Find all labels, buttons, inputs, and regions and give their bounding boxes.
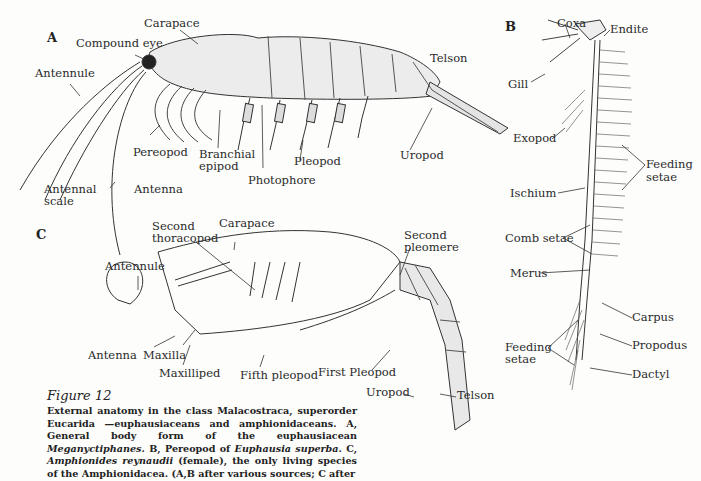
label-c-antennule: Antennule xyxy=(105,260,165,273)
label-b-propodus: Propodus xyxy=(632,339,687,352)
caption-part-italic: Amphionides reynaudii xyxy=(47,455,173,466)
caption-part: . C, xyxy=(339,443,357,454)
label-a-pereopod: Pereopod xyxy=(133,146,188,159)
label-b-dactyl: Dactyl xyxy=(632,368,669,381)
figure-caption: External anatomy in the class Malacostra… xyxy=(47,405,357,481)
label-c-maxilla: Maxilla xyxy=(143,349,186,362)
figure-number: Figure 12 xyxy=(47,388,111,403)
label-a-carapace: Carapace xyxy=(144,17,199,30)
label-a-uropod: Uropod xyxy=(400,149,444,162)
label-c-fifth-pleopod: Fifth pleopod xyxy=(240,369,318,382)
label-c-uropod: Uropod xyxy=(366,386,410,399)
label-a-branchial-epipod-2: epipod xyxy=(199,160,239,173)
label-b-exopod: Exopod xyxy=(513,132,556,145)
caption-part: . B, Pereopod of xyxy=(142,443,235,454)
label-b-comb-setae: Comb setae xyxy=(505,232,574,245)
label-b-feeding-setae-bottom-2: setae xyxy=(505,353,536,366)
caption-part-italic: Euphausia superba xyxy=(235,443,339,454)
label-a-antenna: Antenna xyxy=(134,183,183,196)
label-a-telson: Telson xyxy=(430,52,468,65)
label-b-merus: Merus xyxy=(510,267,547,280)
label-b-feeding-setae-top-2: setae xyxy=(646,171,677,184)
panel-letter-c: C xyxy=(36,227,46,242)
label-c-first-pleopod: First Pleopod xyxy=(318,366,396,379)
label-c-second-pleomere-2: pleomere xyxy=(404,241,459,254)
label-b-endite: Endite xyxy=(610,23,648,36)
label-b-coxa: Coxa xyxy=(557,17,586,30)
label-a-photophore: Photophore xyxy=(248,174,316,187)
caption-part-italic: Meganyctiphanes xyxy=(47,443,142,454)
panel-letter-a: A xyxy=(47,30,57,45)
label-c-antenna: Antenna xyxy=(88,349,137,362)
label-a-antennal-scale-2: scale xyxy=(44,195,74,208)
label-a-antennule: Antennule xyxy=(35,67,95,80)
label-c-second-thoracopod-2: thoracopod xyxy=(152,232,218,245)
caption-part: External anatomy in the class Malacostra… xyxy=(47,405,357,441)
label-a-pleopod: Pleopod xyxy=(294,155,341,168)
label-c-maxilliped: Maxilliped xyxy=(159,367,220,380)
panel-letter-b: B xyxy=(505,19,516,34)
label-c-telson: Telson xyxy=(457,389,495,402)
pereopod-drawing xyxy=(542,20,632,390)
label-b-ischium: Ischium xyxy=(510,187,556,200)
label-a-compound-eye: Compound eye xyxy=(76,37,163,50)
label-b-gill: Gill xyxy=(508,78,528,91)
label-b-carpus: Carpus xyxy=(632,311,674,324)
label-c-carapace: Carapace xyxy=(219,217,274,230)
